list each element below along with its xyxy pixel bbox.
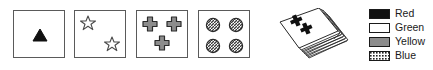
circle-icon [205, 17, 221, 33]
cross-icon [154, 35, 170, 51]
stimulus-card-2[interactable] [74, 10, 126, 58]
star-icon [80, 15, 96, 31]
color-legend: Red Green Yellow Blue [369, 7, 433, 63]
legend-item-blue[interactable]: Blue [369, 49, 433, 62]
legend-label-blue: Blue [395, 50, 416, 61]
legend-label-red: Red [395, 8, 414, 19]
card-sorting-figure: Red Green Yellow Blue [0, 0, 433, 70]
legend-item-yellow[interactable]: Yellow [369, 35, 433, 48]
star-icon [104, 36, 120, 52]
card-deck[interactable] [266, 8, 350, 64]
stimulus-card-3[interactable] [136, 10, 188, 58]
circle-icon [205, 38, 221, 54]
legend-label-green: Green [395, 22, 424, 33]
cross-icon [166, 16, 182, 32]
swatch-red-icon [369, 9, 390, 19]
legend-item-green[interactable]: Green [369, 21, 433, 34]
stimulus-card-4[interactable] [198, 10, 250, 58]
legend-item-red[interactable]: Red [369, 7, 433, 20]
swatch-yellow-icon [369, 37, 390, 47]
cross-icon [142, 16, 158, 32]
circle-icon [228, 17, 244, 33]
swatch-green-icon [369, 23, 390, 33]
stimulus-card-1[interactable] [13, 10, 65, 58]
circle-icon [228, 38, 244, 54]
swatch-blue-icon [369, 51, 390, 61]
legend-label-yellow: Yellow [395, 36, 425, 47]
triangle-icon [32, 27, 48, 43]
